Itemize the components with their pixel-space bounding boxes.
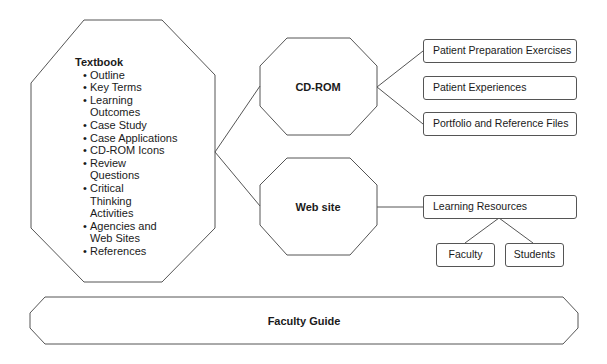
connector-textbook-website xyxy=(215,152,260,206)
list-item: Review Questions xyxy=(83,157,152,182)
connector-cdrom-box1 xyxy=(377,51,423,87)
list-item: Learning Outcomes xyxy=(83,94,152,119)
list-item: References xyxy=(83,245,177,258)
list-item: Outline xyxy=(83,69,177,82)
faculty-box: Faculty xyxy=(436,243,495,267)
learning-resources-box: Learning Resources xyxy=(423,195,577,219)
faculty-guide-label: Faculty Guide xyxy=(268,315,341,327)
website-label: Web site xyxy=(295,201,340,213)
cdrom-label: CD-ROM xyxy=(295,81,340,93)
patient-preparation-exercises-box: Patient Preparation Exercises xyxy=(423,39,577,63)
list-item: Key Terms xyxy=(83,81,177,94)
textbook-content: Textbook Outline Key Terms Learning Outc… xyxy=(75,56,177,258)
list-item: Case Applications xyxy=(83,132,177,145)
connector-resources-students xyxy=(499,218,533,243)
list-item: Critical Thinking Activities xyxy=(83,182,145,220)
portfolio-reference-files-box: Portfolio and Reference Files xyxy=(423,112,577,136)
list-item: Agencies and Web Sites xyxy=(83,220,165,245)
connector-textbook-cdrom xyxy=(215,86,260,152)
patient-experiences-box: Patient Experiences xyxy=(423,76,577,100)
list-item: Case Study xyxy=(83,119,177,132)
students-box: Students xyxy=(505,243,564,267)
connector-cdrom-box3 xyxy=(377,87,423,124)
textbook-title: Textbook xyxy=(75,56,177,69)
textbook-item-list: Outline Key Terms Learning Outcomes Case… xyxy=(75,69,177,258)
list-item: CD-ROM Icons xyxy=(83,144,177,157)
connector-resources-faculty xyxy=(465,218,499,243)
